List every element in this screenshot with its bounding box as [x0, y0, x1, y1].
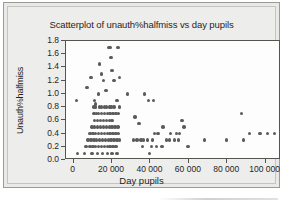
- data-point: [168, 138, 171, 141]
- data-point: [118, 76, 121, 79]
- data-point: [151, 138, 154, 141]
- data-point: [94, 105, 97, 108]
- data-point: [173, 138, 176, 141]
- x-axis-title: Day pupils: [8, 175, 275, 186]
- y-tick-label: 0.2: [47, 142, 59, 151]
- data-point: [75, 99, 78, 102]
- y-axis-ticks: 0.00.20.40.60.81.01.21.41.61.8: [28, 40, 65, 159]
- data-point: [142, 138, 145, 141]
- y-tick-label: 0.0: [47, 155, 59, 164]
- y-tick-label: 1.4: [47, 62, 59, 71]
- y-tick-label: 1.0: [47, 89, 59, 98]
- data-point: [240, 112, 243, 115]
- data-point: [108, 46, 111, 49]
- data-point: [182, 125, 185, 128]
- data-point: [102, 79, 105, 82]
- x-tick-mark: [226, 159, 227, 163]
- data-point: [141, 145, 144, 148]
- x-tick-label: 0: [70, 165, 75, 174]
- x-tick-label: 100 000: [249, 165, 280, 174]
- data-point: [110, 152, 113, 155]
- data-point: [150, 145, 153, 148]
- y-tick-label: 1.6: [47, 49, 59, 58]
- data-point: [106, 152, 109, 155]
- data-point: [114, 145, 117, 148]
- data-point: [156, 132, 159, 135]
- data-point: [203, 138, 206, 141]
- x-tick-mark: [111, 159, 112, 163]
- data-point: [116, 46, 119, 49]
- data-point: [97, 92, 100, 95]
- x-tick-label: 80 000: [213, 165, 239, 174]
- data-point: [178, 132, 181, 135]
- data-point: [242, 138, 245, 141]
- data-point: [266, 132, 269, 135]
- data-point: [186, 145, 189, 148]
- data-points-layer: [66, 41, 279, 158]
- data-point: [117, 112, 120, 115]
- data-point: [76, 152, 79, 155]
- x-tick-mark: [149, 159, 150, 163]
- data-point: [100, 72, 103, 75]
- data-point: [161, 125, 164, 128]
- data-point: [273, 132, 276, 135]
- data-point: [112, 79, 115, 82]
- data-point: [98, 62, 101, 65]
- x-tick-label: 20 000: [98, 165, 124, 174]
- data-point: [105, 89, 108, 92]
- y-tick-label: 0.8: [47, 102, 59, 111]
- data-point: [146, 138, 149, 141]
- chart-title: Scatterplot of unauth%halfmiss vs day pu…: [8, 19, 275, 30]
- data-point: [101, 152, 104, 155]
- data-point: [148, 152, 151, 155]
- data-point: [169, 132, 172, 135]
- x-tick-label: 60 000: [175, 165, 201, 174]
- data-point: [248, 132, 251, 135]
- y-tick-label: 1.2: [47, 75, 59, 84]
- data-point: [155, 145, 158, 148]
- y-tick-label: 0.4: [47, 128, 59, 137]
- data-point: [118, 105, 121, 108]
- plot-area: [65, 40, 280, 159]
- data-point: [116, 125, 119, 128]
- y-tick-label: 1.8: [47, 36, 59, 45]
- data-point: [85, 86, 88, 89]
- x-tick-label: 40 000: [136, 165, 162, 174]
- data-point: [152, 99, 155, 102]
- data-point: [110, 119, 113, 122]
- data-point: [115, 152, 118, 155]
- y-axis-title: Unauth%halfmiss: [13, 41, 27, 159]
- data-point: [177, 138, 180, 141]
- x-tick-mark: [73, 159, 74, 163]
- data-point: [115, 99, 118, 102]
- data-point: [110, 69, 113, 72]
- data-point: [96, 152, 99, 155]
- data-point: [180, 119, 183, 122]
- data-point: [117, 132, 120, 135]
- scan-artifact: [158, 198, 278, 200]
- data-point: [133, 115, 136, 118]
- y-tick-label: 0.6: [47, 115, 59, 124]
- data-point: [112, 105, 115, 108]
- data-point: [118, 138, 121, 141]
- scatterplot-figure: Scatterplot of unauth%halfmiss vs day pu…: [0, 0, 287, 200]
- data-point: [143, 92, 146, 95]
- data-point: [109, 56, 112, 59]
- x-tick-mark: [265, 159, 266, 163]
- data-point: [160, 145, 163, 148]
- data-point: [126, 92, 129, 95]
- data-point: [147, 99, 150, 102]
- data-point: [90, 152, 93, 155]
- data-point: [137, 122, 140, 125]
- data-point: [89, 76, 92, 79]
- figure-panel: Scatterplot of unauth%halfmiss vs day pu…: [3, 2, 280, 188]
- data-point: [258, 132, 261, 135]
- data-point: [225, 138, 228, 141]
- data-point: [83, 152, 86, 155]
- x-tick-mark: [188, 159, 189, 163]
- figure-inner-border: Scatterplot of unauth%halfmiss vs day pu…: [7, 6, 276, 184]
